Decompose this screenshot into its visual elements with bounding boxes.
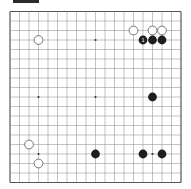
white-stone[interactable] bbox=[129, 26, 138, 35]
black-stone[interactable] bbox=[158, 150, 167, 159]
black-stone[interactable] bbox=[158, 36, 167, 45]
star-point bbox=[94, 39, 96, 41]
white-stone[interactable] bbox=[34, 159, 43, 168]
white-stone[interactable] bbox=[148, 26, 157, 35]
white-stone[interactable] bbox=[25, 140, 34, 149]
star-point bbox=[37, 153, 39, 155]
star-point bbox=[37, 96, 39, 98]
star-point bbox=[94, 96, 96, 98]
black-stone[interactable] bbox=[91, 150, 100, 159]
black-stone[interactable]: 1 bbox=[139, 36, 148, 45]
move-number: 1 bbox=[141, 37, 144, 43]
black-stone[interactable] bbox=[139, 150, 148, 159]
white-stone[interactable] bbox=[34, 36, 43, 45]
go-board[interactable]: 1 bbox=[0, 0, 191, 189]
black-stone[interactable] bbox=[148, 93, 157, 102]
white-stone[interactable] bbox=[158, 26, 167, 35]
black-stone[interactable] bbox=[148, 36, 157, 45]
star-point bbox=[151, 153, 153, 155]
